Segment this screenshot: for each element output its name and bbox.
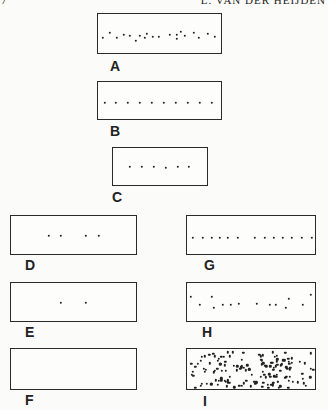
panel-label-h: H [202,325,212,339]
dot [271,351,273,353]
dot [276,360,278,362]
dot [303,362,305,364]
dot [48,235,50,237]
dot [219,237,221,239]
dot [85,235,87,237]
dot [213,307,215,309]
dot [222,356,224,358]
dot [212,371,214,373]
dot [249,385,251,387]
dot [141,166,143,168]
dot [230,304,232,306]
dot [60,235,62,237]
dot [310,294,312,296]
dot [311,237,313,239]
dot [288,380,290,382]
dot [194,365,196,367]
dot [102,37,104,39]
dot [139,35,141,37]
dot [227,237,229,239]
dot [217,360,219,362]
dot [192,237,194,239]
dot [264,237,266,239]
dot [129,35,131,37]
dot [211,102,213,104]
dot [199,304,201,306]
dot [297,381,299,383]
dot [211,296,213,298]
panel-e [10,282,137,322]
dot [269,365,271,367]
dot [227,351,229,353]
dot [269,375,271,377]
dot [276,355,278,357]
dot [204,370,206,372]
panel-label-d: D [25,258,35,272]
dot [269,304,271,306]
panel-label-i: I [203,394,207,408]
dot [180,31,182,33]
dot [248,369,250,371]
dot [192,374,194,376]
dot [214,36,216,38]
dot [285,307,287,309]
dot [204,355,206,357]
dot [129,166,131,168]
dot [206,383,208,385]
page-mark: 7 [1,0,7,6]
dot [289,375,291,377]
dot [60,302,62,304]
dot [224,370,226,372]
running-head: L. VAN DER HEIJDEN [201,0,326,6]
dot [265,376,267,378]
dot [194,386,196,388]
dot [201,356,203,358]
dot [220,379,222,381]
dot [273,237,275,239]
dot [302,304,304,306]
dot [228,355,230,357]
dot [190,296,192,298]
dot [176,38,178,40]
dot [256,303,258,305]
dot [85,302,87,304]
dot [275,304,277,306]
dot [251,374,253,376]
dot [261,386,263,388]
dot [211,237,213,239]
panel-i [186,348,316,390]
dot [267,387,269,389]
dot [152,36,154,38]
dot [241,385,243,387]
dot [301,237,303,239]
dot [262,354,264,356]
panel-c [112,147,208,186]
dot [246,364,248,366]
dot [275,375,277,377]
dot [290,357,292,359]
dot [123,34,125,36]
dot [232,351,234,353]
dot [233,364,235,366]
dot [243,382,245,384]
dot [223,364,225,366]
dot [287,387,289,389]
dot [222,304,224,306]
dot [169,34,171,36]
dot [224,361,226,363]
dot [208,354,210,356]
dot [153,166,155,168]
dot [199,102,201,104]
dot [284,352,286,354]
dot [266,383,268,385]
panel-label-e: E [25,325,34,339]
dot [139,102,141,104]
dot [151,102,153,104]
panel-d [10,215,137,255]
dot [292,380,294,382]
dot [202,237,204,239]
dot [304,384,306,386]
dot [229,375,231,377]
dot [184,35,186,37]
dot [282,237,284,239]
